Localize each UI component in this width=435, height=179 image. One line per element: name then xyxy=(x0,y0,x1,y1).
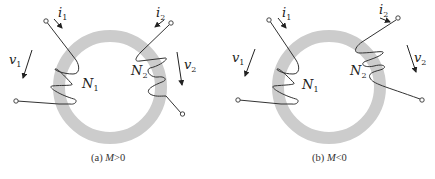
label-v1: v1 xyxy=(9,52,21,69)
diagram-a: i1 i2 v1 v2 N1 N2 (a) M>0 xyxy=(9,5,196,164)
diagram-b: i1 i2 v1 v2 N1 N2 (b) M<0 xyxy=(232,2,426,164)
terminal-1-top xyxy=(267,18,271,22)
voltage-arrow-v2 xyxy=(177,52,182,85)
terminal-2-top xyxy=(396,16,400,20)
terminal-1-bottom xyxy=(236,98,240,102)
label-n1: N1 xyxy=(81,76,98,93)
label-i2: i2 xyxy=(379,2,388,19)
terminal-2-bottom xyxy=(420,98,424,102)
caption-b: (b) M<0 xyxy=(312,152,347,164)
terminal-1-top xyxy=(44,19,48,23)
label-n1: N1 xyxy=(301,77,318,94)
label-v2: v2 xyxy=(184,57,196,74)
terminal-1-bottom xyxy=(14,99,18,103)
caption-a: (a) M>0 xyxy=(91,152,125,164)
label-i2: i2 xyxy=(156,5,165,22)
current-arrow-i1 xyxy=(54,19,62,28)
label-v1: v1 xyxy=(232,50,244,67)
terminal-2-top xyxy=(169,21,173,25)
voltage-arrow-v1 xyxy=(245,49,255,76)
terminal-2-bottom xyxy=(180,112,184,116)
toroidal-core xyxy=(59,36,161,138)
label-v2: v2 xyxy=(414,50,426,67)
voltage-arrow-v1 xyxy=(23,50,32,78)
label-i1: i1 xyxy=(58,5,67,22)
label-n2: N2 xyxy=(130,63,147,80)
label-i1: i1 xyxy=(282,5,291,22)
coupled-coils-figure: i1 i2 v1 v2 N1 N2 (a) M>0 xyxy=(0,0,435,179)
toroidal-core xyxy=(278,36,380,138)
